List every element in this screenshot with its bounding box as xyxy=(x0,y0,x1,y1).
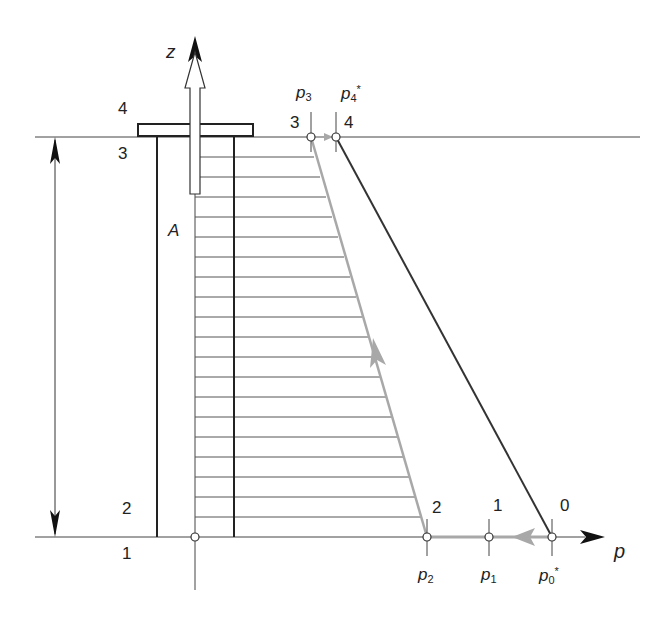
p-axis-label: p xyxy=(614,541,625,561)
tick-marks xyxy=(311,112,552,556)
level-4-label: 4 xyxy=(118,100,127,117)
level-2-label: 2 xyxy=(122,500,131,517)
point-origin xyxy=(191,533,199,541)
pressure-p1-label: p1 xyxy=(481,566,497,585)
point-0 xyxy=(548,533,556,541)
hatch-lines xyxy=(195,157,422,517)
pressure-p2-label: p2 xyxy=(418,566,434,585)
state-3-label: 3 xyxy=(290,114,299,131)
pressure-p3-label: p3 xyxy=(296,84,312,103)
pressure-p4-star-label: p4* xyxy=(341,84,361,104)
state-4-label: 4 xyxy=(344,114,353,131)
level-3-label: 3 xyxy=(118,145,127,162)
pressure-p0-star-label: p0* xyxy=(539,566,559,586)
process-arrow-up-icon xyxy=(370,338,386,368)
state-0-label: 0 xyxy=(560,497,569,514)
level-1-label: 1 xyxy=(122,545,131,562)
region-a-label: A xyxy=(168,222,179,239)
point-3 xyxy=(307,133,315,141)
diagram-canvas xyxy=(0,0,660,624)
point-1 xyxy=(485,533,493,541)
point-2 xyxy=(423,533,431,541)
point-4 xyxy=(332,133,340,141)
z-axis-label: z xyxy=(166,42,176,61)
state-2-label: 2 xyxy=(432,499,441,516)
state-1-label: 1 xyxy=(493,497,502,514)
